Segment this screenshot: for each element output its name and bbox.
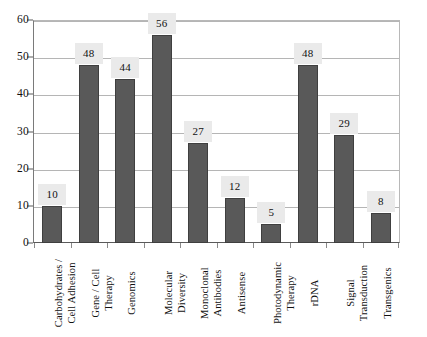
bar-slot: 27: [180, 20, 217, 243]
y-axis-tick-label: 60: [3, 14, 29, 26]
bar-value-label: 10: [38, 184, 66, 205]
x-axis-tick-mark: [71, 243, 72, 248]
bar[interactable]: [298, 65, 318, 243]
y-axis-tick-label: 50: [3, 51, 29, 63]
x-axis-label-slot: PhotodynamicTherapy: [253, 249, 290, 337]
bars-container: 104844562712548298: [34, 20, 399, 243]
bar[interactable]: [371, 213, 391, 243]
bar[interactable]: [334, 135, 354, 243]
bar[interactable]: [152, 35, 172, 243]
bar[interactable]: [225, 198, 245, 243]
x-axis-tick-mark: [180, 243, 181, 248]
bar-slot: 10: [34, 20, 71, 243]
x-axis-label-slot: Transgenics: [363, 249, 400, 337]
bar-value-label: 44: [111, 57, 139, 78]
x-axis-label-line: Gene / Cell: [89, 269, 102, 318]
x-axis-label-slot: MolecularDiversity: [144, 249, 181, 337]
x-axis-tick-mark: [363, 243, 364, 248]
x-axis-label-line: Carbohydrates /: [52, 259, 65, 327]
x-axis-label-slot: Gene / CellTherapy: [71, 249, 108, 337]
x-axis-label-line: Signal: [344, 279, 357, 306]
bar-slot: 8: [363, 20, 400, 243]
bar[interactable]: [42, 206, 62, 243]
bar[interactable]: [188, 143, 208, 243]
x-axis-tick-mark: [290, 243, 291, 248]
bar-slot: 29: [326, 20, 363, 243]
y-axis-tick-label: 40: [3, 89, 29, 101]
x-axis-tick-mark: [326, 243, 327, 248]
bar-value-label: 56: [148, 13, 176, 34]
x-axis-label-line: Molecular: [162, 271, 175, 315]
y-axis-tick-label: 0: [3, 237, 29, 249]
bar-value-label: 29: [330, 113, 358, 134]
bar-chart: 6050403020100 104844562712548298 Carbohy…: [0, 0, 427, 337]
bar-value-label: 48: [294, 43, 322, 64]
bar-value-label: 8: [367, 191, 395, 212]
x-axis-category-label: Antisense: [235, 249, 248, 337]
x-axis-label-slot: Genomics: [107, 249, 144, 337]
y-axis-tick-label: 30: [3, 126, 29, 138]
x-axis-category-label: rDNA: [308, 249, 321, 337]
x-axis-label-line: Transgenics: [381, 267, 394, 318]
bar-slot: 48: [290, 20, 327, 243]
bar[interactable]: [115, 79, 135, 243]
x-axis-label-slot: Antisense: [217, 249, 254, 337]
x-axis-label-line: Antisense: [235, 272, 248, 314]
x-axis-label-slot: MonoclonalAntibodies: [180, 249, 217, 337]
x-axis-tick-mark: [253, 243, 254, 248]
bar-value-label: 5: [257, 202, 285, 223]
x-axis-label-slot: SignalTransduction: [326, 249, 363, 337]
x-axis-tick-mark: [217, 243, 218, 248]
x-axis-label-line: Genomics: [125, 271, 138, 314]
x-axis-label-line: Monoclonal: [198, 267, 211, 319]
x-axis-tick-mark: [34, 243, 35, 248]
x-axis-tick-mark: [107, 243, 108, 248]
x-axis-label-slot: rDNA: [290, 249, 327, 337]
bar-slot: 44: [107, 20, 144, 243]
y-axis-tick-label: 10: [3, 200, 29, 212]
x-axis-label-slot: Carbohydrates /Cell Adhesion: [34, 249, 71, 337]
x-axis-tick-mark: [398, 243, 399, 248]
bar-value-label: 48: [75, 43, 103, 64]
x-axis-tick-mark: [144, 243, 145, 248]
y-axis-labels: 6050403020100: [0, 20, 29, 243]
bar-slot: 5: [253, 20, 290, 243]
x-axis-category-label: Transgenics: [381, 249, 394, 337]
bar-slot: 12: [217, 20, 254, 243]
x-axis-label-line: Photodynamic: [271, 262, 284, 324]
bar-slot: 48: [71, 20, 108, 243]
x-axis-labels: Carbohydrates /Cell AdhesionGene / CellT…: [34, 249, 399, 337]
bar-value-label: 12: [221, 176, 249, 197]
bar-slot: 56: [144, 20, 181, 243]
bar[interactable]: [79, 65, 99, 243]
bar[interactable]: [261, 224, 281, 243]
bar-value-label: 27: [184, 121, 212, 142]
y-axis-tick-label: 20: [3, 163, 29, 175]
x-axis-label-line: rDNA: [308, 280, 321, 307]
x-axis-category-label: Genomics: [125, 249, 138, 337]
